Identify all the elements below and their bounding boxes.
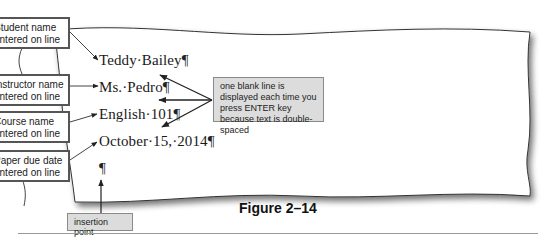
callout-instructor-name: Instructor name entered on line 2 [0,74,70,106]
callout-line1: Student name [0,22,64,34]
insertion-point-callout: insertion point [67,213,133,231]
empty-paragraph-insertion-point[interactable]: ¶ [99,160,106,177]
line-text: Ms.·Pedro [99,79,163,95]
doc-line-instructor-name: Ms.·Pedro¶ [99,79,170,96]
doc-line-course-name: English·101¶ [99,106,180,123]
callout-line1: Instructor name [0,79,64,91]
doc-line-due-date: October·15,·2014¶ [99,133,215,150]
bottom-divider [18,233,538,234]
paragraph-mark: ¶ [163,79,170,95]
callout-student-name: Student name entered on line 1 [0,17,70,49]
callout-course-name: Course name entered on line 3 [0,111,70,143]
callout-paper-due-date: Paper due date entered on line 4 [0,150,70,182]
paragraph-mark: ¶ [182,52,189,68]
paragraph-mark: ¶ [208,133,215,149]
doc-line-student-name: Teddy·Bailey¶ [99,52,189,69]
line-text: Teddy·Bailey [99,52,182,68]
callout-line2: entered on line 2 [0,91,64,106]
callout-line1: Course name [0,116,64,128]
callout-line2: entered on line 3 [0,128,64,143]
double-spacing-note: one blank line is displayed each time yo… [213,77,324,122]
line-text: October·15,·2014 [99,133,208,149]
callout-line2: entered on line 4 [0,167,64,182]
callout-line2: entered on line 1 [0,34,64,49]
callout-line1: Paper due date [0,155,64,167]
paragraph-mark: ¶ [99,160,106,176]
figure-caption: Figure 2–14 [239,200,317,216]
paragraph-mark: ¶ [173,106,180,122]
line-text: English·101 [99,106,173,122]
